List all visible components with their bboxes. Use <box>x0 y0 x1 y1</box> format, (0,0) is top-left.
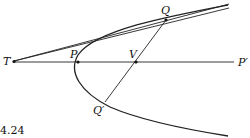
label-v: V <box>129 48 138 61</box>
label-q-prime: Q′ <box>93 104 105 117</box>
parabola-diagram: T P V P′ Q Q′ 4.24 <box>0 0 250 138</box>
label-p-prime: P′ <box>237 56 248 69</box>
tangent-line-upper <box>14 4 229 61</box>
figure-caption: 4.24 <box>0 124 25 137</box>
tangent-line-lower <box>14 8 229 61</box>
point-q <box>164 18 167 21</box>
label-q: Q <box>161 4 170 17</box>
point-t <box>12 60 15 63</box>
label-t: T <box>3 55 12 68</box>
label-p: P <box>69 48 78 61</box>
